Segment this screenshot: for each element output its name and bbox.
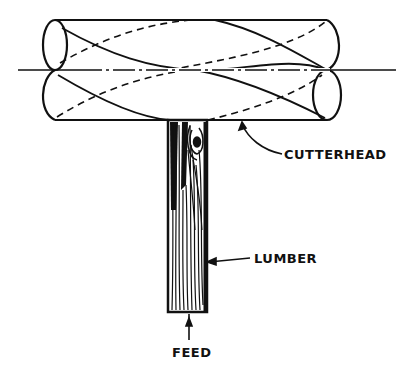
lumber-board bbox=[168, 120, 207, 312]
lumber-leader bbox=[207, 258, 250, 265]
diagram-canvas: CUTTERHEAD LUMBER FEED bbox=[0, 0, 411, 373]
cutterhead-label: CUTTERHEAD bbox=[284, 147, 387, 162]
cutterhead-leader bbox=[239, 122, 282, 154]
feed-arrow-icon bbox=[186, 314, 192, 340]
lumber-label: LUMBER bbox=[254, 251, 317, 266]
feed-label: FEED bbox=[172, 345, 211, 360]
cutterhead-diagram: CUTTERHEAD LUMBER FEED bbox=[0, 0, 411, 373]
